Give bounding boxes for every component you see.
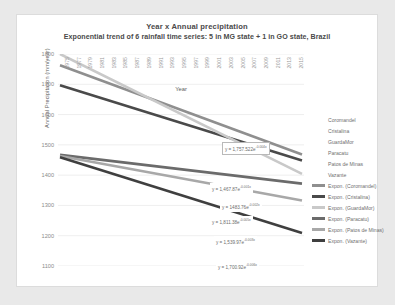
- x-tick-label: 1997: [193, 57, 199, 69]
- equation-exponent: -0.001x: [240, 185, 251, 189]
- x-axis-title: Year: [58, 86, 304, 92]
- legend-empty-swatch: [312, 118, 325, 121]
- equation-exponent: -0.002x: [249, 203, 260, 207]
- chart-subtitle: Exponential trend of 6 rainfall time ser…: [17, 32, 377, 43]
- legend-label: Expon. (Cristalina): [328, 194, 370, 200]
- page-title: Year x Annual precipitation: [17, 21, 377, 32]
- x-tick-label: 1977: [76, 57, 82, 69]
- equation-exponent: -0.006x: [246, 263, 257, 267]
- legend-item-series[interactable]: Paracatu: [312, 147, 395, 158]
- x-tick-label: 2003: [228, 57, 234, 69]
- x-tick-label: 1999: [204, 57, 210, 69]
- legend-empty-swatch: [312, 151, 325, 154]
- x-tick-label: 1985: [122, 57, 128, 69]
- legend-label: Coromandel: [328, 117, 356, 123]
- legend-item-series[interactable]: Cristalina: [312, 125, 395, 136]
- x-tick-label: 1993: [169, 57, 175, 69]
- x-tick-label: 2005: [240, 57, 246, 69]
- legend-label: Cristalina: [328, 128, 349, 134]
- legend-item-trend[interactable]: Expon. (Patos de Minas): [312, 224, 395, 235]
- legend: CoromandelCristalinaGuardaMorParacatuPat…: [312, 114, 395, 246]
- legend-empty-swatch: [312, 162, 325, 165]
- plot-area: Annual Precipitation (mm/year) 180017001…: [58, 54, 304, 266]
- legend-label: Expon. (Patos de Minas): [328, 227, 384, 233]
- legend-label: Expon. (Vazante): [328, 238, 367, 244]
- legend-line-swatch: [312, 195, 325, 198]
- equation-exponent: -0.004x: [256, 145, 267, 149]
- x-tick-label: 1983: [111, 57, 117, 69]
- trendline-equation-label: y = 1,539.97e-0.003x: [214, 236, 257, 247]
- equation-coefficient: y = 1,467.87e: [212, 187, 240, 192]
- legend-label: GuardaMor: [328, 139, 354, 145]
- x-tick-label: 1979: [87, 57, 93, 69]
- legend-line-swatch: [312, 184, 325, 187]
- legend-line-swatch: [312, 217, 325, 220]
- legend-empty-swatch: [312, 173, 325, 176]
- equation-exponent: -0.003x: [244, 238, 255, 242]
- equation-coefficient: y = 1483.76e: [222, 205, 249, 210]
- legend-item-trend[interactable]: Expon. (GuardaMor): [312, 202, 395, 213]
- legend-empty-swatch: [312, 140, 325, 143]
- x-tick-label: 2001: [216, 57, 222, 69]
- legend-label: Expon. (Paracatu): [328, 216, 369, 222]
- trendline-equation-label: y = 1,467.87e-0.001x: [210, 183, 253, 194]
- legend-item-series[interactable]: Vazante: [312, 169, 395, 180]
- x-tick-label: 1989: [146, 57, 152, 69]
- y-tick-label: 1800: [42, 51, 54, 57]
- x-tick-label: 2015: [298, 57, 304, 69]
- trend-line: [60, 54, 302, 174]
- legend-item-series[interactable]: GuardaMor: [312, 136, 395, 147]
- equation-coefficient: y = 1,700.92e: [218, 265, 246, 270]
- x-tick-label: 2013: [286, 57, 292, 69]
- x-tick-label: 1981: [99, 57, 105, 69]
- legend-label: Expon. (Coromandel): [328, 183, 376, 189]
- x-tick-label: 2009: [263, 57, 269, 69]
- x-tick-label: 1975: [64, 57, 70, 69]
- legend-empty-swatch: [312, 129, 325, 132]
- y-tick-label: 1100: [42, 263, 54, 269]
- x-tick-label: 2007: [251, 57, 257, 69]
- x-tick-label: 1987: [134, 57, 140, 69]
- y-tick-label: 1600: [42, 112, 54, 118]
- equation-coefficient: y = 1,811.38e: [212, 220, 240, 225]
- legend-item-trend[interactable]: Expon. (Paracatu): [312, 213, 395, 224]
- y-tick-label: 1200: [42, 233, 54, 239]
- trendline-equation-label: y = 1483.76e-0.002x: [220, 201, 262, 212]
- legend-item-series[interactable]: Coromandel: [312, 114, 395, 125]
- y-tick-label: 1700: [42, 81, 54, 87]
- y-tick-label: 1400: [42, 172, 54, 178]
- chart-title-block: Year x Annual precipitation Exponential …: [17, 21, 377, 43]
- equation-coefficient: y = 1,757.522e: [225, 147, 256, 152]
- legend-line-swatch: [312, 228, 325, 231]
- x-tick-label: 1991: [158, 57, 164, 69]
- legend-label: Paracatu: [328, 150, 348, 156]
- y-tick-label: 1500: [42, 142, 54, 148]
- legend-line-swatch: [312, 206, 325, 209]
- legend-item-series[interactable]: Patos de Minas: [312, 158, 395, 169]
- trendline-equation-label: y = 1,811.38e-0.005x: [210, 216, 253, 227]
- equation-coefficient: y = 1,539.97e: [216, 240, 244, 245]
- trendline-equation-label: y = 1,757.522e-0.004x: [222, 142, 270, 155]
- legend-label: Vazante: [328, 172, 346, 178]
- y-tick-label: 1300: [42, 202, 54, 208]
- x-tick-label: 2011: [275, 57, 281, 68]
- trendline-equation-label: y = 1,700.92e-0.006x: [216, 261, 259, 272]
- legend-item-trend[interactable]: Expon. (Coromandel): [312, 180, 395, 191]
- y-axis-title: Annual Precipitation (mm/year): [44, 8, 50, 128]
- x-tick-label: 1995: [181, 57, 187, 69]
- legend-label: Patos de Minas: [328, 161, 363, 167]
- equation-exponent: -0.005x: [240, 218, 251, 222]
- legend-label: Expon. (GuardaMor): [328, 205, 374, 211]
- chart-card: Year x Annual precipitation Exponential …: [16, 14, 378, 287]
- legend-item-trend[interactable]: Expon. (Vazante): [312, 235, 395, 246]
- legend-line-swatch: [312, 239, 325, 242]
- legend-item-trend[interactable]: Expon. (Cristalina): [312, 191, 395, 202]
